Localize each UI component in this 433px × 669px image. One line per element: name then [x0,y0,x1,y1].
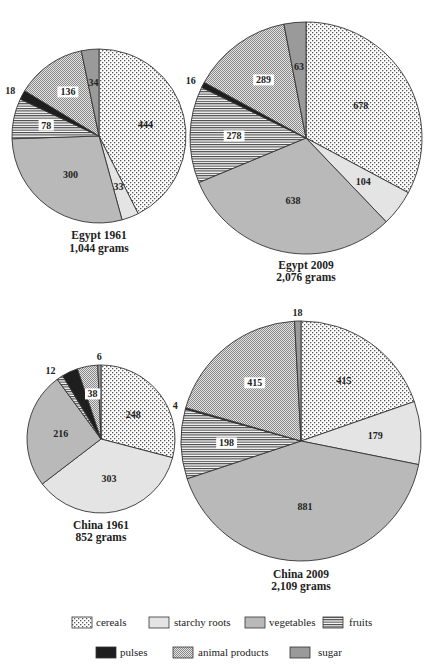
value-label-china-1961-cereals: 248 [126,409,141,420]
value-label-china-2009-vegetables: 881 [298,501,313,512]
value-label-egypt-2009-animal-products: 289 [256,74,271,85]
value-label-egypt-2009-vegetables: 638 [285,195,300,206]
pie-china-1961: 2483032161230386 [27,351,175,513]
legend-item-pulses: pulses [96,646,148,658]
legend-item-fruits: fruits [323,616,372,628]
value-label-china-2009-animal-products: 415 [247,377,262,388]
legend-item-vegetables: vegetables [245,616,315,628]
value-label-china-1961-sugar: 6 [97,351,102,362]
value-label-china-2009-sugar: 18 [293,307,303,318]
legend-swatch-sugar [290,647,310,658]
legend-label-cereals: cereals [96,616,127,628]
value-label-egypt-1961-cereals: 444 [138,119,153,130]
caption-egypt-2009-total: 2,076 grams [276,271,336,284]
value-label-china-2009-fruits: 198 [219,437,234,448]
legend-swatch-starchy-roots [149,617,169,628]
value-label-egypt-1961-animal-products: 136 [60,86,75,97]
value-label-egypt-1961-starchy-roots: 33 [113,181,123,192]
legend-swatch-cereals [72,617,92,628]
caption-china-1961-title: China 1961 [73,519,129,531]
value-label-egypt-2009-pulses: 16 [186,75,196,86]
legend-swatch-vegetables [245,617,265,628]
value-label-china-1961-vegetables: 216 [53,428,68,439]
legend-label-starchy-roots: starchy roots [174,616,231,628]
value-label-china-1961-fruits: 12 [45,365,55,376]
value-label-egypt-1961-pulses: 18 [5,85,15,96]
legend-label-fruits: fruits [349,616,372,628]
value-label-china-2009-pulses: 4 [173,400,178,411]
caption-china-2009-title: China 2009 [273,568,329,580]
value-label-china-1961-animal-products: 38 [88,388,98,399]
pie-chart-figure: 44433300781813634 6781046382781628963 24… [0,0,433,669]
value-label-china-1961-starchy-roots: 303 [102,473,117,484]
legend-swatch-fruits [323,617,343,628]
value-label-egypt-2009-sugar: 63 [294,61,304,72]
legend-label-pulses: pulses [120,646,148,658]
legend-label-vegetables: vegetables [269,616,315,628]
legend-label-sugar: sugar [318,646,342,658]
legend-item-animal-products: animal products [173,646,269,658]
value-label-egypt-1961-sugar: 34 [89,77,99,88]
caption-egypt-1961-title: Egypt 1961 [71,229,127,242]
value-label-china-2009-cereals: 415 [337,375,352,386]
caption-china-1961-total: 852 grams [76,531,127,544]
value-label-egypt-2009-cereals: 678 [353,100,368,111]
legend-swatch-pulses [96,647,116,658]
legend: cereals starchy roots vegetables fruits … [72,616,372,658]
legend-swatch-animal-products [173,647,193,658]
legend-item-sugar: sugar [290,646,342,658]
value-label-egypt-1961-vegetables: 300 [63,169,78,180]
value-label-egypt-2009-fruits: 278 [227,130,242,141]
caption-egypt-1961-total: 1,044 grams [69,242,129,255]
pie-egypt-2009: 6781046382781628963 [186,22,422,254]
legend-label-animal-products: animal products [198,646,269,658]
value-label-egypt-1961-fruits: 78 [41,120,51,131]
caption-china-2009-total: 2,109 grams [271,580,331,593]
value-label-egypt-2009-starchy-roots: 104 [356,176,371,187]
legend-item-cereals: cereals [72,616,127,628]
value-label-china-2009-starchy-roots: 179 [368,430,383,441]
legend-item-starchy-roots: starchy roots [149,616,231,628]
pie-china-2009: 415179881198441518 [173,307,421,561]
pie-egypt-1961: 44433300781813634 [5,49,186,223]
